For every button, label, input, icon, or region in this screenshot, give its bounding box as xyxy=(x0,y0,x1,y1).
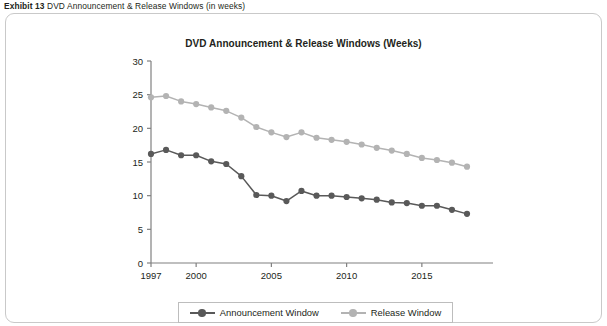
data-point xyxy=(193,152,199,158)
data-point xyxy=(389,199,395,205)
data-point xyxy=(313,135,319,141)
data-point xyxy=(374,145,380,151)
data-point xyxy=(253,124,259,130)
data-point xyxy=(328,193,334,199)
data-point xyxy=(464,164,470,170)
exhibit-description: DVD Announcement & Release Windows (in w… xyxy=(47,1,245,11)
x-tick-label: 2000 xyxy=(186,270,207,281)
x-tick-label: 2010 xyxy=(336,270,357,281)
data-point xyxy=(223,161,229,167)
legend-item-release-window[interactable]: Release Window xyxy=(341,307,441,318)
data-point xyxy=(163,147,169,153)
exhibit-label: Exhibit 13 xyxy=(4,1,45,11)
data-point xyxy=(178,152,184,158)
data-point xyxy=(283,134,289,140)
y-tick-label: 10 xyxy=(132,190,143,201)
data-point xyxy=(298,188,304,194)
y-tick-label: 25 xyxy=(132,89,143,100)
data-point xyxy=(178,98,184,104)
data-point xyxy=(328,137,334,143)
data-point xyxy=(268,193,274,199)
data-point xyxy=(238,173,244,179)
data-point xyxy=(298,129,304,135)
data-point xyxy=(359,195,365,201)
exhibit-caption: Exhibit 13 DVD Announcement & Release Wi… xyxy=(4,0,245,12)
data-point xyxy=(434,157,440,163)
data-point xyxy=(434,203,440,209)
data-point xyxy=(344,139,350,145)
data-point xyxy=(283,198,289,204)
legend-item-announcement-window[interactable]: Announcement Window xyxy=(190,307,319,318)
data-point xyxy=(419,203,425,209)
data-point xyxy=(374,197,380,203)
data-point xyxy=(449,207,455,213)
data-point xyxy=(404,151,410,157)
data-point xyxy=(449,160,455,166)
data-point xyxy=(208,104,214,110)
data-point xyxy=(148,151,154,157)
data-point xyxy=(268,129,274,135)
data-point xyxy=(389,147,395,153)
y-tick-label: 30 xyxy=(132,56,143,67)
legend-label: Announcement Window xyxy=(220,307,319,318)
legend-marker-icon xyxy=(341,308,366,317)
data-point xyxy=(148,94,154,100)
data-point xyxy=(238,114,244,120)
y-tick-label: 15 xyxy=(132,157,143,168)
data-point xyxy=(223,108,229,114)
y-tick-label: 20 xyxy=(132,123,143,134)
chart-panel: DVD Announcement & Release Windows (Week… xyxy=(5,13,602,323)
legend-marker-icon xyxy=(190,308,215,317)
data-point xyxy=(313,193,319,199)
x-tick-label: 2005 xyxy=(261,270,282,281)
data-point xyxy=(359,141,365,147)
data-point xyxy=(163,93,169,99)
x-tick-label: 1997 xyxy=(140,270,161,281)
legend-label: Release Window xyxy=(371,307,441,318)
chart-legend: Announcement Window Release Window xyxy=(178,302,453,323)
plot-area: 05101520253019972000200520102015 xyxy=(6,14,603,324)
data-point xyxy=(208,158,214,164)
y-tick-label: 0 xyxy=(138,258,143,269)
line-chart: 05101520253019972000200520102015 xyxy=(6,14,603,324)
data-point xyxy=(464,211,470,217)
y-tick-label: 5 xyxy=(138,224,143,235)
data-point xyxy=(404,200,410,206)
data-point xyxy=(253,192,259,198)
data-point xyxy=(344,194,350,200)
data-point xyxy=(193,101,199,107)
x-tick-label: 2015 xyxy=(411,270,432,281)
data-point xyxy=(419,155,425,161)
